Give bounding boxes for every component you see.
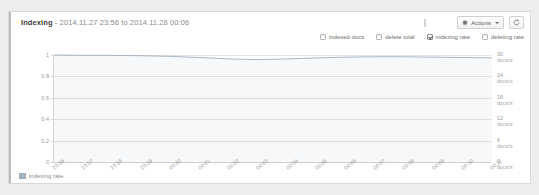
loading-bar-icon [421, 19, 429, 27]
panel-header: Indexing - 2014.11.27 23:56 to 2014.11.2… [9, 12, 530, 34]
series-toggle-indexing-rate[interactable]: indexing rate [427, 34, 470, 40]
y-axis-left-label: 0.8 [9, 73, 49, 79]
gear-icon [462, 20, 468, 26]
panel-toolbar: Actions [457, 16, 524, 29]
legend-label: indexing rate [29, 173, 63, 179]
y-axis-left-label: 0.4 [9, 116, 49, 122]
chart-legend[interactable]: indexing rate [19, 173, 63, 179]
y-axis-right-label: 12docs/s [497, 115, 539, 127]
checkbox-icon[interactable] [320, 34, 326, 40]
checkbox-icon[interactable] [482, 34, 488, 40]
y-axis-right-label: 18docs/s [497, 94, 539, 106]
indexing-chart-panel: Indexing - 2014.11.27 23:56 to 2014.11.2… [8, 11, 531, 184]
chevron-down-icon [495, 22, 499, 24]
series-toggle-label: indexing rate [436, 34, 470, 40]
screenshot-root: Indexing - 2014.11.27 23:56 to 2014.11.2… [0, 0, 539, 195]
series-toggle-deleting-rate[interactable]: deleting rate [482, 34, 524, 40]
y-axis-right-label: 24docs/s [497, 72, 539, 84]
refresh-icon [513, 19, 520, 26]
series-line-indexing-rate [54, 55, 492, 162]
series-toggle-delete-total[interactable]: delete total [376, 34, 414, 40]
checkbox-icon[interactable] [376, 34, 382, 40]
series-toggle-label: deleting rate [491, 34, 524, 40]
y-axis-left-label: 0 [9, 159, 49, 165]
chart-plot[interactable] [53, 55, 491, 162]
checkbox-checked-icon[interactable] [427, 34, 433, 40]
y-axis-right-label: 6docs/s [497, 137, 539, 149]
panel-title-separator: - [53, 18, 60, 27]
chart-area[interactable]: 10.80.60.40.20 30docs/s24docs/s18docs/s1… [9, 46, 530, 183]
series-toggle-label: indexed docs [329, 34, 364, 40]
y-axis-left-label: 0.6 [9, 95, 49, 101]
series-toggle-group: indexed docs delete total indexing rate … [320, 34, 524, 40]
series-toggle-label: delete total [385, 34, 414, 40]
legend-color-swatch [19, 173, 26, 179]
y-axis-right-label: 0docs/s [497, 158, 539, 170]
actions-button-label: Actions [471, 20, 491, 26]
panel-title-name: Indexing [21, 18, 53, 27]
panel-title-range: 2014.11.27 23:56 to 2014.11.28 00:06 [60, 18, 190, 27]
refresh-button[interactable] [509, 16, 524, 29]
actions-button[interactable]: Actions [457, 16, 504, 29]
y-axis-left-label: 1 [9, 52, 49, 58]
series-toggle-indexed-docs[interactable]: indexed docs [320, 34, 364, 40]
y-axis-right-label: 30docs/s [497, 51, 539, 63]
y-axis-left-label: 0.2 [9, 138, 49, 144]
page-title: Indexing - 2014.11.27 23:56 to 2014.11.2… [21, 18, 189, 27]
